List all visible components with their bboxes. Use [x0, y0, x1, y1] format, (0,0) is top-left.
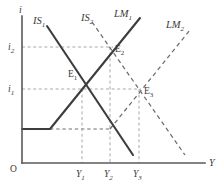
curve-label-LM1: LM1 — [113, 8, 132, 22]
guide-lines-horizontal — [22, 47, 141, 129]
x-tick-Y1: Y1 — [76, 169, 85, 182]
guide-lines-vertical — [82, 47, 139, 163]
curve-label-IS2: IS2 — [80, 12, 94, 26]
interest-rate-axis-label: i — [19, 4, 22, 15]
x-tick-labels: Y1 Y2 Y3 — [76, 169, 142, 182]
diagram-canvas: i Y O i2 i1 Y1 Y2 Y3 IS1 — [0, 0, 220, 191]
solid-curves — [22, 18, 140, 155]
y-tick-i2: i2 — [8, 42, 15, 55]
y-tick-i1: i1 — [8, 84, 14, 97]
curve-labels: IS1 IS2 LM1 LM2 — [32, 8, 185, 33]
x-tick-Y2: Y2 — [104, 169, 113, 182]
curve-label-LM2: LM2 — [165, 19, 185, 33]
curve-LM1 — [22, 18, 140, 129]
origin-label: O — [10, 164, 17, 174]
equilibrium-label-E2: E2 — [115, 44, 125, 57]
x-tick-Y3: Y3 — [133, 169, 142, 182]
curve-label-IS1: IS1 — [32, 15, 45, 29]
equilibrium-label-E3: E3 — [144, 86, 154, 99]
is-lm-diagram: i Y O i2 i1 Y1 Y2 Y3 IS1 — [0, 0, 220, 191]
y-tick-labels: i2 i1 — [8, 42, 15, 97]
output-axis-label: Y — [209, 157, 216, 168]
curve-LM2 — [110, 30, 190, 129]
